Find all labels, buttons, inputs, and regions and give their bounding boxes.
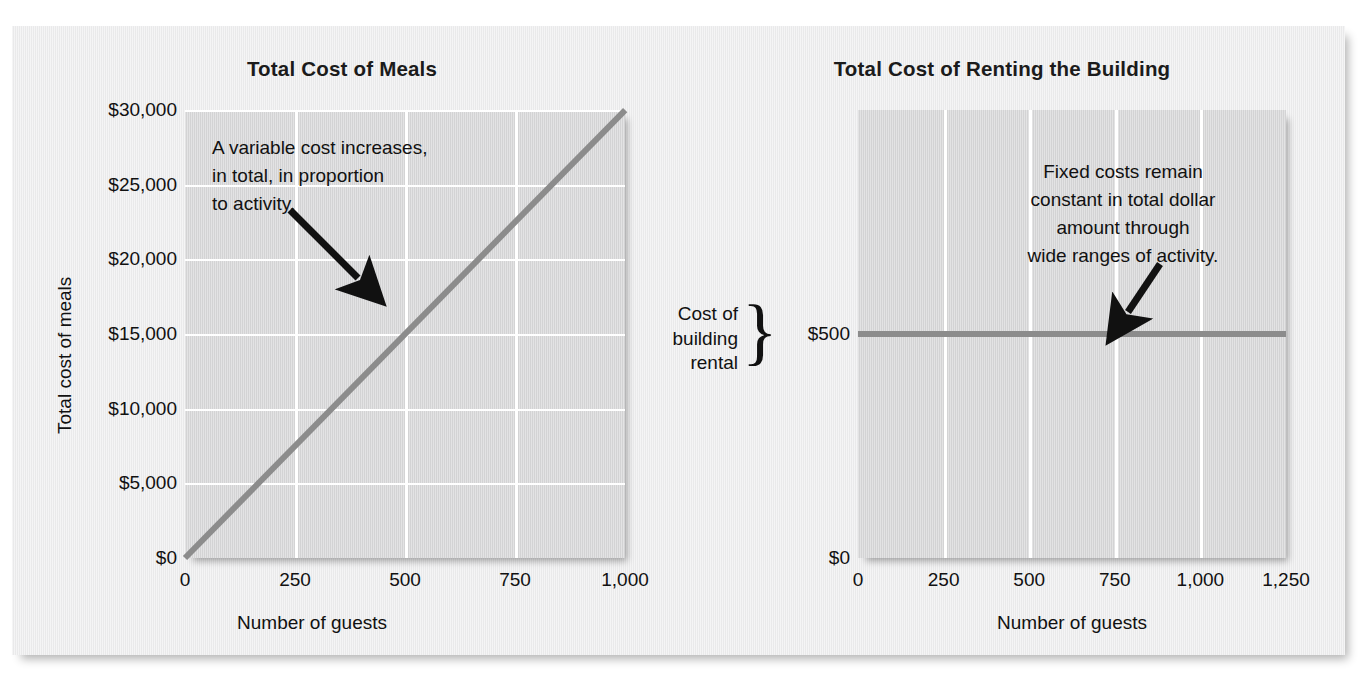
ytick-label: $0 (17, 547, 177, 569)
ytick-label: $20,000 (17, 248, 177, 270)
y-axis-title-meals: Total cost of meals (54, 277, 76, 434)
figure-panel: Total Cost of Meals A variable cost incr… (12, 26, 1345, 655)
annotation-arrow-fixed-cost (1116, 260, 1206, 350)
xtick-label: 750 (1099, 569, 1131, 591)
annotation-arrow-variable-cost (285, 205, 405, 320)
chart-title-rent: Total Cost of Renting the Building (672, 57, 1332, 81)
xtick-label: 250 (279, 569, 311, 591)
ytick-label: $5,000 (17, 472, 177, 494)
chart-total-cost-of-meals: Total Cost of Meals A variable cost incr… (12, 26, 672, 655)
xtick-label: 500 (389, 569, 421, 591)
plot-area-rent: Fixed costs remain constant in total dol… (858, 110, 1286, 558)
ytick-label-0: $0 (730, 547, 850, 569)
x-axis-title-meals: Number of guests (237, 612, 387, 634)
curly-brace-icon: } (742, 294, 778, 368)
ytick-label: $25,000 (17, 174, 177, 196)
ytick-label: $10,000 (17, 398, 177, 420)
xtick-label: 1,000 (1177, 569, 1225, 591)
xtick-label: 250 (928, 569, 960, 591)
ytick-label: $15,000 (17, 323, 177, 345)
bracket-label-building-rental: Cost of building rental (628, 302, 738, 376)
gridline-vertical (515, 110, 518, 558)
xtick-label: 1,000 (601, 569, 649, 591)
chart-title-meals: Total Cost of Meals (12, 57, 672, 81)
annotation-fixed-cost: Fixed costs remain constant in total dol… (973, 158, 1273, 270)
xtick-label: 500 (1013, 569, 1045, 591)
x-axis-title-rent: Number of guests (997, 612, 1147, 634)
xtick-label: 1,250 (1262, 569, 1310, 591)
xtick-label: 0 (853, 569, 864, 591)
chart-total-cost-of-renting-the-building: Total Cost of Renting the Building Fixed… (672, 26, 1345, 655)
plot-area-meals: A variable cost increases, in total, in … (185, 110, 625, 558)
xtick-label: 0 (180, 569, 191, 591)
xtick-label: 750 (499, 569, 531, 591)
ytick-label: $30,000 (17, 99, 177, 121)
fixed-cost-line (858, 331, 1286, 337)
